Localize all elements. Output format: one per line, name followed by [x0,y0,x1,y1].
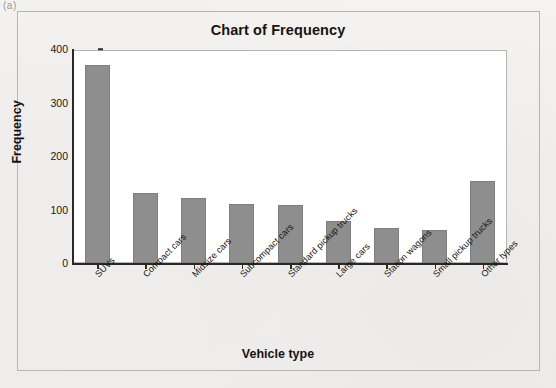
y-tick-mark [98,48,103,50]
y-tick-label: 0 [34,257,68,269]
y-tick-label: 400 [34,43,68,55]
y-tick-label: 100 [34,204,68,216]
bar [229,204,254,263]
y-axis-ticks: 0100200300400 [30,0,68,388]
chart-title: Chart of Frequency [0,22,556,38]
y-tick-label: 200 [34,150,68,162]
figure-corner-label: (a) [3,0,17,11]
y-axis-line [72,49,74,264]
x-axis-title: Vehicle type [0,347,556,361]
bar [85,65,110,263]
bar [181,198,206,263]
y-tick-label: 300 [34,97,68,109]
bar [133,193,158,263]
y-axis-title: Frequency [10,72,24,192]
